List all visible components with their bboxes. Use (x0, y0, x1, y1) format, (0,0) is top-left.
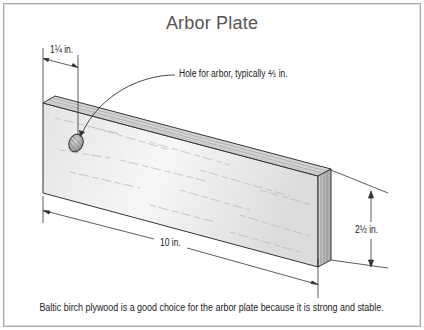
caption-text: Baltic birch plywood is a good choice fo… (40, 301, 384, 313)
height-dimension (331, 170, 388, 268)
caption: Baltic birch plywood is a good choice fo… (0, 301, 424, 313)
length-dimension-label: 10 in. (160, 237, 181, 248)
hole-callout-label: Hole for arbor, typically ⅘ in. (179, 68, 288, 79)
height-dimension-label: 2½ in. (355, 224, 378, 235)
board (43, 96, 331, 267)
offset-dimension-label: 1¼ in. (50, 44, 73, 55)
